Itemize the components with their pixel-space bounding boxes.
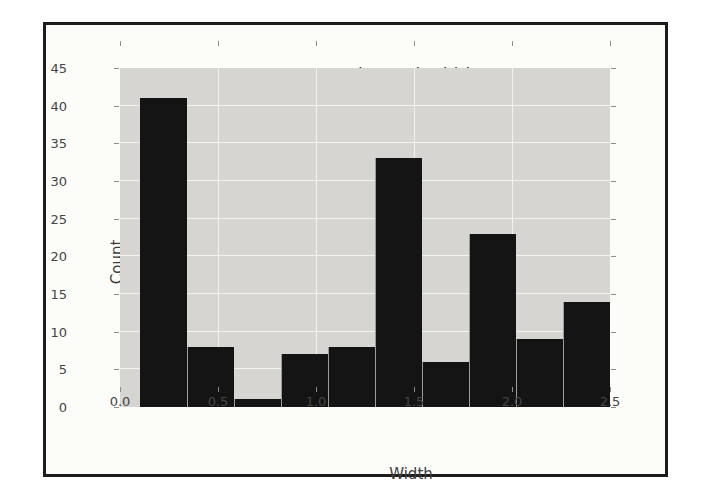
y-gridline — [120, 218, 610, 219]
y-tick-mark — [114, 181, 119, 182]
y-tick-mark-right — [611, 106, 616, 107]
x-tick-mark-top — [512, 41, 513, 46]
y-tick-label: 30 — [0, 174, 67, 189]
y-tick-label: 5 — [0, 362, 67, 377]
y-gridline — [120, 105, 610, 106]
x-axis-label: Width — [166, 465, 656, 483]
page-background: Iris Petal Width Count 05101520253035404… — [0, 0, 702, 503]
x-tick-mark — [218, 387, 219, 392]
y-tick-label: 45 — [0, 61, 67, 76]
x-tick-mark — [120, 387, 121, 392]
x-tick-mark-top — [120, 41, 121, 46]
x-tick-mark-top — [218, 41, 219, 46]
y-gridline — [120, 331, 610, 332]
y-tick-label: 25 — [0, 211, 67, 226]
figure-frame: Iris Petal Width Count 05101520253035404… — [43, 22, 668, 477]
y-tick-label: 20 — [0, 249, 67, 264]
x-tick-label: 1.0 — [296, 394, 336, 409]
y-tick-mark-right — [611, 181, 616, 182]
y-gridline — [120, 142, 610, 143]
y-tick-mark-right — [611, 256, 616, 257]
y-tick-mark — [114, 256, 119, 257]
y-tick-mark-right — [611, 219, 616, 220]
y-tick-label: 0 — [0, 400, 67, 415]
histogram-bar — [140, 98, 187, 407]
y-tick-mark-right — [611, 143, 616, 144]
histogram-bar — [234, 399, 281, 407]
y-tick-label: 10 — [0, 324, 67, 339]
x-tick-label: 2.0 — [492, 394, 532, 409]
y-tick-mark — [114, 332, 119, 333]
x-tick-mark — [512, 387, 513, 392]
y-tick-mark-right — [611, 294, 616, 295]
y-gridline — [120, 180, 610, 181]
y-tick-mark — [114, 143, 119, 144]
y-tick-mark — [114, 68, 119, 69]
y-tick-mark — [114, 369, 119, 370]
y-tick-mark-right — [611, 332, 616, 333]
histogram-bar — [563, 302, 610, 407]
x-tick-mark-top — [414, 41, 415, 46]
histogram-bar — [469, 234, 516, 407]
x-tick-mark — [414, 387, 415, 392]
x-tick-label: 1.5 — [394, 394, 434, 409]
y-tick-mark — [114, 294, 119, 295]
y-tick-mark-right — [611, 68, 616, 69]
x-tick-mark — [610, 387, 611, 392]
y-tick-label: 35 — [0, 136, 67, 151]
x-tick-label: 0.0 — [100, 394, 140, 409]
x-tick-label: 0.5 — [198, 394, 238, 409]
y-tick-mark — [114, 219, 119, 220]
y-tick-mark-right — [611, 369, 616, 370]
y-gridline — [120, 255, 610, 256]
y-gridline — [120, 293, 610, 294]
y-tick-label: 15 — [0, 287, 67, 302]
plot-area — [120, 68, 610, 407]
x-tick-mark-top — [610, 41, 611, 46]
x-tick-label: 2.5 — [590, 394, 630, 409]
x-tick-mark-top — [316, 41, 317, 46]
histogram-bar — [375, 158, 422, 407]
x-tick-mark — [316, 387, 317, 392]
y-tick-label: 40 — [0, 98, 67, 113]
y-tick-mark — [114, 106, 119, 107]
